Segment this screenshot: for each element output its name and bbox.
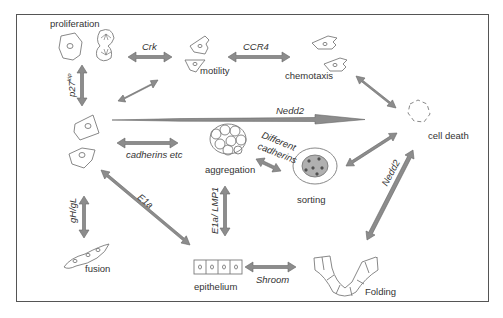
edge-label-ghgl: gH/gL [68, 198, 78, 223]
p27-arrow [77, 65, 87, 106]
node-label-aggregation: aggregation [205, 165, 255, 175]
chemotaxis-death-arrow [356, 76, 396, 108]
aggregation-cluster-icon [210, 124, 246, 155]
edge-label-shroom: Shroom [256, 275, 289, 285]
different-cadherins-arrow [256, 158, 281, 172]
cell-icon [74, 115, 99, 140]
node-label-chemotaxis: chemotaxis [285, 71, 333, 81]
nedd2-horizontal-arrow [112, 115, 365, 125]
motility-prolif-arrow [118, 80, 158, 102]
node-label-fusion: fusion [85, 264, 110, 274]
edge-label-nedd2-horizontal: Nedd2 [276, 106, 304, 116]
e1a-lmp1-arrow [220, 186, 230, 236]
edge-label-ccr4: CCR4 [243, 42, 269, 52]
ccr4-arrow [228, 52, 290, 62]
edge-label-crk: Crk [142, 42, 157, 52]
edge-label-e1a-lmp1: E1a/ LMP1 [210, 187, 220, 234]
motility-cell-icon [190, 36, 209, 54]
proliferation-cell-icon [59, 33, 82, 60]
shroom-arrow [245, 262, 296, 272]
node-label-epithelium: epithelium [194, 282, 237, 292]
cell-behavior-diagram: proliferation motility chemotaxis cell d… [0, 0, 503, 318]
cell-icon [69, 148, 95, 168]
node-label-cell-death: cell death [428, 131, 469, 141]
p27-base: p27 [66, 81, 77, 97]
edge-label-cadherins-etc: cadherins etc [126, 150, 183, 160]
p27-superscript: kip [66, 73, 72, 81]
node-label-sorting: sorting [297, 195, 326, 205]
cadherins-arrow [117, 138, 178, 148]
node-label-folding: Folding [365, 287, 396, 297]
sorting-cluster-icon [293, 148, 337, 184]
node-label-proliferation: proliferation [50, 19, 100, 29]
edge-label-p27kip: p27kip [66, 73, 77, 97]
crk-arrow [128, 52, 172, 62]
ghgl-arrow [79, 196, 89, 238]
node-label-motility: motility [200, 66, 230, 76]
epithelium-icon [194, 260, 242, 274]
dying-cell-icon [408, 100, 430, 122]
